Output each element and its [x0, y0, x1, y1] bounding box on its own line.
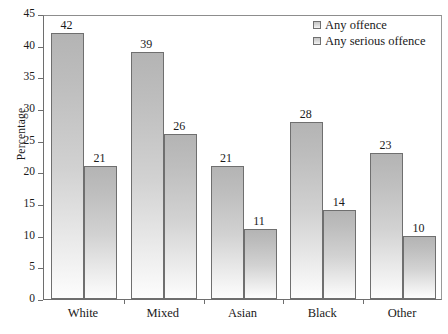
y-axis-tick: 5: [0, 268, 43, 269]
bar-value-label: 42: [44, 18, 89, 33]
y-axis-tick-label: 15: [24, 197, 36, 209]
y-axis-tick: 40: [0, 47, 43, 48]
x-axis-tick-mark: [124, 299, 125, 304]
bar-value-label: 21: [204, 151, 249, 166]
y-axis-tick-label: 35: [24, 70, 36, 82]
x-axis-tick-mark: [204, 299, 205, 304]
legend-swatch-icon: [313, 37, 321, 45]
legend-label: Any offence: [325, 18, 387, 32]
bar: [211, 166, 244, 299]
x-axis-label-other: Other: [362, 306, 442, 321]
y-axis-tick: 15: [0, 205, 43, 206]
y-axis-tick-label: 5: [29, 260, 35, 272]
y-axis-tick: 10: [0, 237, 43, 238]
bar: [131, 52, 164, 299]
bar-value-label: 26: [157, 119, 202, 134]
y-axis-tick-label: 10: [24, 229, 36, 241]
bar-value-label: 39: [124, 37, 169, 52]
y-axis-tick: 35: [0, 78, 43, 79]
x-axis-label-mixed: Mixed: [123, 306, 203, 321]
bar-value-label: 14: [316, 195, 361, 210]
y-axis-tick-label: 20: [24, 165, 36, 177]
y-axis-tick: 25: [0, 142, 43, 143]
y-axis-tick-label: 45: [24, 7, 36, 19]
bar-value-label: 11: [237, 214, 282, 229]
bar-value-label: 28: [283, 107, 328, 122]
cropped-caption: [0, 327, 448, 334]
bar-chart: Percentage 454035302520151050 4221392621…: [0, 0, 448, 334]
y-axis-tick: 30: [0, 110, 43, 111]
y-axis-tick: 20: [0, 173, 43, 174]
y-axis-tick-mark: [38, 300, 43, 301]
bar: [51, 33, 84, 299]
legend-item-any-serious-offence: Any serious offence: [313, 34, 425, 48]
bar: [164, 134, 197, 299]
x-axis-label-asian: Asian: [203, 306, 283, 321]
y-axis-tick-label: 25: [24, 134, 36, 146]
chart-legend: Any offence Any serious offence: [313, 18, 425, 50]
bar: [244, 229, 277, 299]
bar-value-label: 21: [77, 151, 122, 166]
bar: [403, 236, 436, 299]
bar: [84, 166, 117, 299]
y-axis-tick: 45: [0, 15, 43, 16]
x-axis-tick-mark: [283, 299, 284, 304]
x-axis-tick-mark: [363, 299, 364, 304]
bar: [323, 210, 356, 299]
legend-label: Any serious offence: [325, 34, 425, 48]
x-axis-label-black: Black: [282, 306, 362, 321]
legend-swatch-icon: [313, 21, 321, 29]
bar: [290, 122, 323, 299]
y-axis-tick-label: 0: [29, 292, 35, 304]
x-axis-label-white: White: [43, 306, 123, 321]
bar-value-label: 23: [363, 138, 408, 153]
y-axis-tick-label: 30: [24, 102, 36, 114]
y-axis-tick-label: 40: [24, 39, 36, 51]
legend-item-any-offence: Any offence: [313, 18, 425, 32]
y-axis-tick: 0: [0, 300, 43, 301]
bar-value-label: 10: [396, 221, 441, 236]
